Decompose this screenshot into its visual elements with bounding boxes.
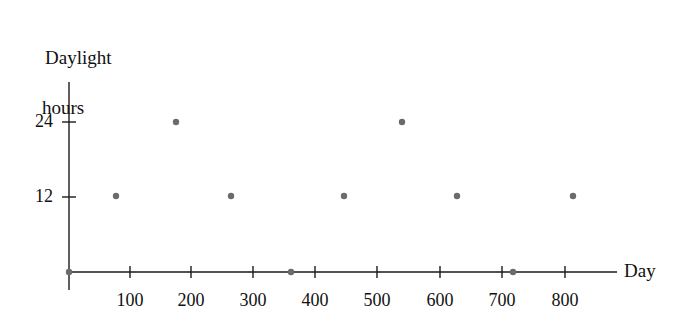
x-tick-label: 500 <box>347 290 407 310</box>
y-tick-label: 12 <box>13 186 53 206</box>
x-tick-label: 100 <box>100 290 160 310</box>
tick-marks <box>62 122 565 278</box>
data-point <box>341 193 347 199</box>
x-tick-label: 200 <box>161 290 221 310</box>
axis-lines <box>69 82 617 290</box>
data-point <box>113 193 119 199</box>
data-point <box>288 269 294 275</box>
scatter-chart: Daylight hours Day 2412 1002003004005006… <box>0 0 679 331</box>
data-point <box>454 193 460 199</box>
x-tick-label: 700 <box>472 290 532 310</box>
plot-area <box>0 0 679 331</box>
data-point-series <box>66 119 576 275</box>
data-point <box>570 193 576 199</box>
x-tick-label: 600 <box>410 290 470 310</box>
data-point <box>399 119 405 125</box>
x-tick-label: 800 <box>535 290 595 310</box>
data-point <box>228 193 234 199</box>
data-point <box>173 119 179 125</box>
y-tick-label: 24 <box>13 111 53 131</box>
x-tick-label: 400 <box>285 290 345 310</box>
data-point <box>510 269 516 275</box>
x-tick-label: 300 <box>223 290 283 310</box>
data-point <box>66 269 72 275</box>
